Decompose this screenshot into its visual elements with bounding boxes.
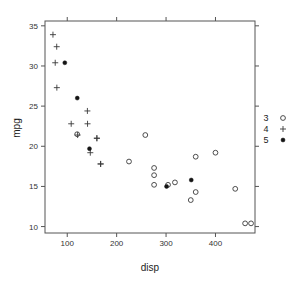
- point: [193, 190, 198, 195]
- point: [152, 166, 157, 171]
- point: [50, 32, 56, 38]
- y-axis-title: mpg: [11, 118, 22, 137]
- x-tick-label: 300: [159, 239, 173, 248]
- point: [189, 178, 193, 182]
- point: [54, 85, 60, 91]
- data-points: [50, 32, 253, 226]
- axis-tick-labels: 100200300400101520253035: [29, 22, 223, 248]
- point: [152, 182, 157, 187]
- point: [127, 159, 132, 164]
- point: [85, 121, 91, 127]
- legend-marker-3: [281, 116, 286, 121]
- point: [87, 147, 91, 151]
- point: [68, 121, 74, 127]
- y-tick-label: 10: [29, 223, 38, 232]
- point: [213, 150, 218, 155]
- axis-ticks: [41, 17, 259, 237]
- x-tick-label: 100: [61, 239, 75, 248]
- plot-border: [45, 21, 255, 233]
- point: [188, 198, 193, 203]
- series-5: [63, 61, 193, 189]
- x-tick-label: 200: [110, 239, 124, 248]
- point: [52, 60, 58, 66]
- point: [152, 173, 157, 178]
- legend-marker-4: [280, 126, 286, 132]
- point: [75, 96, 79, 100]
- chart-container: 100200300400101520253035 345 disp mpg: [0, 0, 301, 283]
- point: [98, 161, 104, 167]
- y-tick-label: 35: [29, 22, 38, 31]
- chart-legend: 345: [263, 113, 286, 145]
- point: [165, 184, 169, 188]
- y-tick-label: 15: [29, 182, 38, 191]
- scatter-plot: 100200300400101520253035 345 disp mpg: [0, 0, 301, 283]
- y-tick-label: 25: [29, 102, 38, 111]
- y-tick-label: 30: [29, 62, 38, 71]
- point: [193, 154, 198, 159]
- point: [233, 186, 238, 191]
- legend-label-4: 4: [263, 124, 268, 134]
- point: [243, 221, 248, 226]
- legend-marker-5: [281, 138, 285, 142]
- point: [54, 44, 60, 50]
- point: [143, 133, 148, 138]
- legend-label-3: 3: [263, 113, 268, 123]
- x-tick-label: 400: [209, 239, 223, 248]
- y-tick-label: 20: [29, 142, 38, 151]
- legend-label-5: 5: [263, 135, 268, 145]
- series-3: [75, 132, 254, 226]
- point: [249, 221, 254, 226]
- point: [63, 61, 67, 65]
- point: [173, 180, 178, 185]
- plot-frame: [45, 21, 255, 233]
- point: [84, 108, 90, 114]
- point: [94, 135, 100, 141]
- x-axis-title: disp: [141, 262, 160, 273]
